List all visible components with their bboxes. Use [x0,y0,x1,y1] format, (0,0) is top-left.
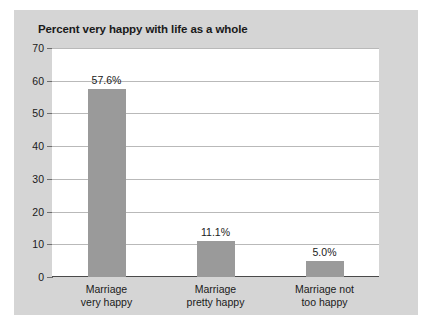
x-axis-category-label: Marriagevery happy [81,283,132,309]
y-axis-tick-label: 50 [32,107,44,119]
x-axis-category-label-line: too happy [295,296,354,309]
y-axis-tick-mark [47,277,52,278]
bar [88,89,126,277]
x-axis-category-label-line: Marriage [187,283,245,296]
y-axis-tick-label: 20 [32,206,44,218]
bar [306,261,344,277]
x-axis-category-label-line: Marriage not [295,283,354,296]
y-axis-tick-label: 70 [32,42,44,54]
y-axis-tick-label: 0 [38,271,44,283]
chart-figure: Percent very happy with life as a whole … [14,10,418,315]
x-axis-category-label-line: Marriage [81,283,132,296]
x-axis-category-label-line: very happy [81,296,132,309]
y-axis-tick-label: 10 [32,238,44,250]
bar [197,241,235,277]
bar-value-label: 5.0% [313,246,337,258]
chart-title: Percent very happy with life as a whole [38,23,248,35]
bar-value-label: 57.6% [92,74,122,86]
x-axis-category-label-line: pretty happy [187,296,245,309]
plot-area: 57.6%11.1%5.0% [52,48,379,277]
x-axis-category-label: Marriage nottoo happy [295,283,354,309]
bar-value-label: 11.1% [201,226,230,238]
x-axis-category-label: Marriagepretty happy [187,283,245,309]
gridline [52,48,379,49]
y-axis-tick-label: 30 [32,173,44,185]
y-axis-tick-label: 40 [32,140,44,152]
y-axis-tick-label: 60 [32,75,44,87]
